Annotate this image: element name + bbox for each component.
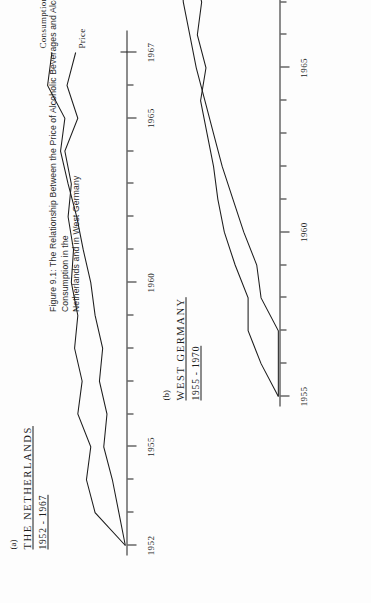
panel-country-b: WEST GERMANY (175, 297, 186, 400)
series-label-price-a: Price (77, 29, 87, 49)
x-tick-1961 (128, 249, 134, 250)
x-tick-1960 (128, 282, 137, 283)
panel-letter-b: (b) (161, 390, 171, 401)
x-tick-label-1965: 1965 (146, 108, 156, 128)
x-tick-1955 (281, 396, 290, 397)
x-tick-1966 (128, 84, 134, 85)
x-tick-1954 (128, 479, 134, 480)
x-tick-1959 (281, 264, 287, 265)
series-label-consumption-a: Consumption (38, 0, 48, 49)
x-tick-label-1967: 1967 (146, 43, 156, 63)
x-tick-1964 (281, 100, 287, 101)
series-line-price-b (181, 0, 278, 397)
series-line-consumption-b (185, 0, 278, 397)
x-tick-label-1960: 1960 (299, 222, 309, 242)
figure-page: Figure 9.1: The Relationship Between the… (0, 0, 371, 603)
x-tick-1956 (281, 363, 287, 364)
x-tick-1960 (281, 231, 290, 232)
x-tick-1967 (281, 1, 287, 2)
x-tick-1958 (281, 297, 287, 298)
panel-country-a: THE NETHERLANDS (22, 426, 33, 549)
x-tick-1958 (128, 347, 134, 348)
x-tick-1962 (128, 216, 134, 217)
x-tick-1956 (128, 413, 134, 414)
x-tick-1959 (128, 314, 134, 315)
panel-years-a: 1952 - 1967 (38, 495, 48, 550)
x-tick-label-1952: 1952 (146, 536, 156, 556)
x-tick-label-1955: 1955 (146, 437, 156, 457)
x-tick-1963 (281, 133, 287, 134)
chart-panel-west-germany: (b) WEST GERMANY 1955 - 1970 Consumption… (163, 0, 315, 407)
series-line-consumption-a (48, 53, 126, 546)
x-tick-1963 (128, 183, 134, 184)
x-tick-label-1960: 1960 (146, 273, 156, 293)
chart-panel-netherlands: (a) THE NETHERLANDS 1952 - 1967 Consumpt… (10, 31, 162, 556)
x-tick-1955 (128, 446, 137, 447)
x-tick-1966 (281, 34, 287, 35)
x-tick-1957 (128, 380, 134, 381)
x-tick-1962 (281, 165, 287, 166)
x-tick-1957 (281, 330, 287, 331)
panel-letter-a: (a) (8, 540, 18, 550)
x-tick-1964 (128, 150, 134, 151)
series-line-price-a (65, 53, 125, 546)
x-tick-label-1955: 1955 (299, 387, 309, 407)
x-tick-1953 (128, 512, 134, 513)
panel-years-b: 1955 - 1970 (191, 346, 201, 401)
x-tick-1965 (128, 117, 137, 118)
x-tick-1952 (128, 545, 137, 546)
x-tick-1967 (128, 52, 137, 53)
x-tick-1965 (281, 67, 290, 68)
x-tick-1961 (281, 198, 287, 199)
x-tick-label-1965: 1965 (299, 58, 309, 78)
